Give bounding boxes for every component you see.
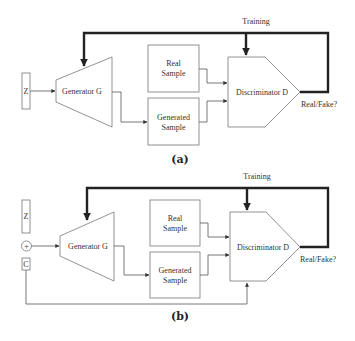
generator-to-sample-arrow xyxy=(112,92,147,122)
generator-label: Generator G xyxy=(62,87,102,96)
training-label: Training xyxy=(243,172,270,181)
caption-a: (a) xyxy=(171,153,189,166)
generated-sample-line1: Generated xyxy=(159,266,192,275)
generated-to-discriminator-arrow xyxy=(199,101,227,122)
generated-sample-line2: Sample xyxy=(163,276,187,285)
c-label: C xyxy=(23,260,28,269)
z-label: Z xyxy=(24,212,29,221)
concat-symbol: + xyxy=(24,242,29,251)
generator-label: Generator G xyxy=(68,242,108,251)
real-to-discriminator-arrow xyxy=(199,69,227,83)
discriminator-label: Discriminator D xyxy=(237,243,289,252)
real-to-discriminator-arrow xyxy=(200,223,229,237)
output-label: Real/Fake? xyxy=(300,255,336,264)
z-label: Z xyxy=(24,87,29,96)
generator-to-sample-arrow xyxy=(114,246,149,275)
panel-b: Training Z + C Generator G Real Sample G… xyxy=(22,172,337,323)
training-label: Training xyxy=(242,17,269,26)
caption-b: (b) xyxy=(171,310,189,323)
generated-sample-line2: Sample xyxy=(162,123,186,132)
generated-to-discriminator-arrow xyxy=(200,255,229,275)
discriminator-label: Discriminator D xyxy=(236,88,288,97)
real-sample-line2: Sample xyxy=(163,224,187,233)
panel-a: Training Z Generator G Real Sample Gener… xyxy=(22,17,337,166)
output-label: Real/Fake? xyxy=(301,100,337,109)
real-sample-line1: Real xyxy=(168,214,183,223)
generated-sample-line1: Generated xyxy=(157,113,190,122)
real-sample-line1: Real xyxy=(166,59,181,68)
real-sample-line2: Sample xyxy=(162,69,186,78)
real-sample-box xyxy=(150,200,200,246)
gan-diagram: Training Z Generator G Real Sample Gener… xyxy=(0,0,355,341)
generated-sample-box xyxy=(150,252,200,298)
